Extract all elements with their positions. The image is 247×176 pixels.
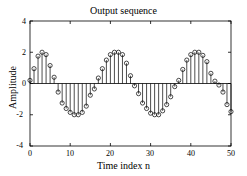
stem-plot [0, 0, 247, 176]
figure-canvas: Output sequence Amplitude Time index n 4… [0, 0, 247, 176]
